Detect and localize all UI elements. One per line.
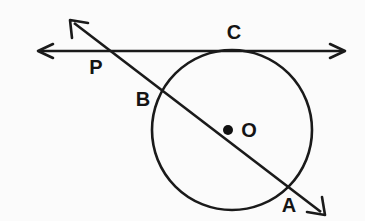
center-point-dot	[223, 125, 233, 135]
secant-upper-left-arrowhead	[70, 20, 88, 38]
label-point-p: P	[89, 56, 102, 78]
label-point-c: C	[227, 21, 241, 43]
secant-line-group	[70, 20, 325, 215]
label-point-a: A	[282, 194, 296, 216]
geometry-diagram-canvas: P B C A O	[0, 0, 365, 221]
label-point-o: O	[241, 119, 257, 141]
tangent-line-group	[38, 44, 345, 58]
geometry-figure: P B C A O	[0, 0, 365, 221]
secant-lower-right-arrowhead	[307, 197, 325, 215]
label-point-b: B	[136, 88, 150, 110]
